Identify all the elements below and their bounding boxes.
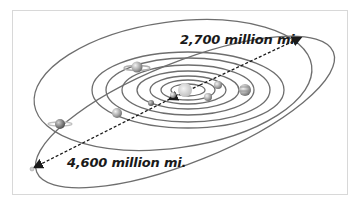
mars-icon (148, 100, 154, 106)
uranus-icon (112, 108, 122, 118)
orbit-neptune (26, 3, 321, 167)
jupiter-icon (239, 84, 251, 96)
distance-arrows (35, 38, 300, 167)
pluto-icon (30, 167, 34, 171)
venus-icon (204, 93, 212, 101)
earth-icon (214, 81, 222, 89)
outer-distance-label: 4,600 million mi. (67, 155, 186, 170)
mercury-icon (170, 92, 176, 98)
solar-system-diagram (0, 0, 358, 202)
inner-distance-label: 2,700 million mi. (180, 32, 299, 47)
sun-icon (178, 83, 192, 97)
